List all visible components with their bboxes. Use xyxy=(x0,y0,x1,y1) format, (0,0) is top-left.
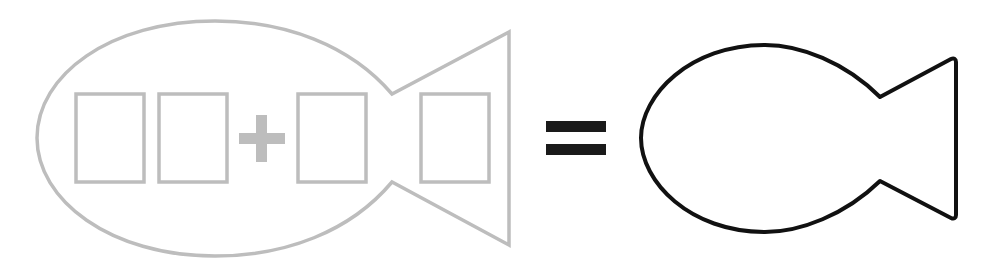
ones-digit-slot[interactable] xyxy=(159,94,227,182)
plus-icon xyxy=(239,115,285,162)
tail-slot[interactable] xyxy=(421,94,489,182)
left-fish xyxy=(37,21,509,256)
right-fish-outline[interactable] xyxy=(641,45,956,232)
addend-slot[interactable] xyxy=(298,94,366,182)
tens-digit-slot[interactable] xyxy=(76,94,144,182)
diagram-canvas xyxy=(0,0,996,269)
equals-icon xyxy=(546,121,606,155)
